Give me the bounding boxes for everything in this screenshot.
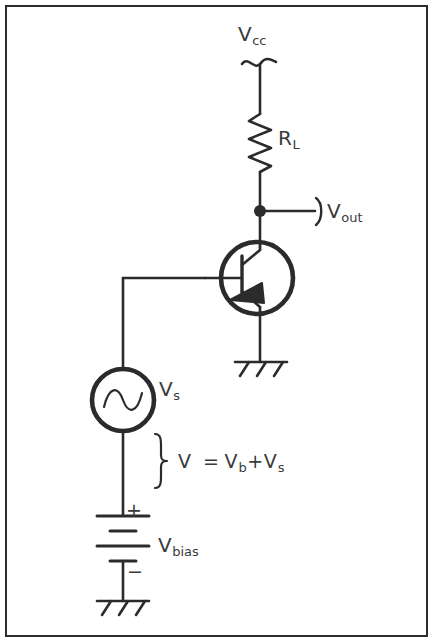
equation-v: V: [178, 450, 192, 472]
label-battery-minus: −: [127, 560, 143, 582]
total-voltage-brace-icon: [155, 434, 167, 488]
ac-source-sine-icon: [104, 390, 142, 410]
emitter-ground-hatch-1: [240, 362, 249, 376]
label-rl-base: R: [278, 126, 292, 150]
label-vbias-base: V: [158, 533, 172, 557]
label-vcc: Vcc: [238, 24, 266, 47]
label-vbias: Vbias: [158, 535, 199, 558]
battery-ground-hatch-2: [119, 601, 128, 615]
emitter-ground-hatch-3: [274, 362, 283, 376]
label-vout-sub: out: [341, 210, 362, 225]
label-rl: RL: [278, 128, 300, 151]
transistor-collector-lead: [242, 250, 260, 265]
battery-ground-hatch-3: [136, 601, 145, 615]
label-vcc-base: V: [238, 22, 252, 46]
label-vs-sub: s: [173, 388, 180, 403]
label-total-voltage-equation: V =Vb+Vs: [178, 452, 285, 474]
label-vbias-sub: bias: [172, 544, 199, 559]
vout-bracket-icon: [316, 198, 321, 225]
equation-vb-sub: b: [238, 460, 247, 475]
load-resistor-icon: [249, 114, 271, 172]
label-vs: Vs: [159, 379, 180, 402]
transistor-emitter-arrow-icon: [230, 283, 264, 303]
label-vout: Vout: [327, 201, 362, 224]
equation-equals: =: [203, 450, 219, 472]
label-vs-base: V: [159, 377, 173, 401]
label-vout-base: V: [327, 199, 341, 223]
label-battery-plus: +: [126, 499, 142, 521]
label-vcc-sub: cc: [252, 33, 266, 48]
equation-vb-base: V: [224, 450, 238, 472]
equation-plus: +: [247, 450, 263, 472]
battery-ground-hatch-1: [102, 601, 111, 615]
emitter-ground-hatch-2: [257, 362, 266, 376]
diagram-canvas: Vcc RL Vout Vs V =Vb+Vs Vbias + −: [0, 0, 435, 644]
equation-vs-sub: s: [278, 460, 285, 475]
output-node-dot: [254, 205, 266, 217]
circuit-schematic: [0, 0, 435, 644]
equation-vs-base: V: [264, 450, 278, 472]
label-rl-sub: L: [292, 137, 299, 152]
